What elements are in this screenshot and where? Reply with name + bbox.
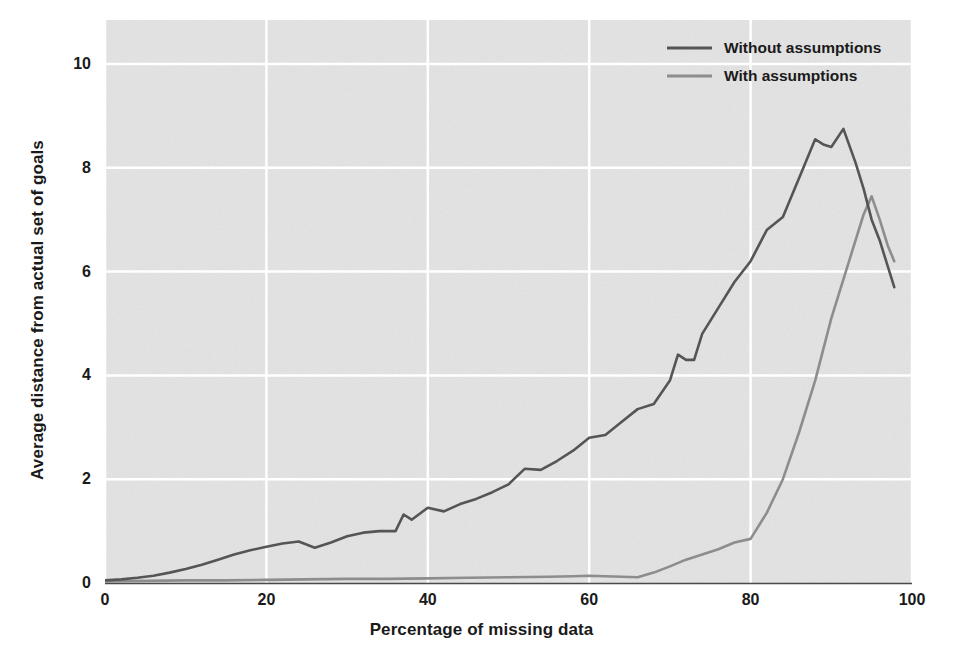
- x-tick-label: 100: [899, 591, 926, 609]
- x-tick-label: 0: [101, 591, 110, 609]
- y-tick-label: 10: [47, 55, 91, 73]
- legend-label-with-assumptions: With assumptions: [724, 67, 857, 84]
- y-tick-label: 0: [47, 574, 91, 592]
- y-axis-title: Average distance from actual set of goal…: [28, 50, 48, 570]
- legend-label-without-assumptions: Without assumptions: [724, 39, 881, 56]
- y-tick-label: 4: [47, 366, 91, 384]
- y-tick-label: 6: [47, 263, 91, 281]
- x-tick-label: 80: [742, 591, 760, 609]
- chart-figure: Without assumptions With assumptions 020…: [0, 0, 963, 659]
- x-tick-label: 20: [257, 591, 275, 609]
- line-chart-plot: Without assumptions With assumptions: [0, 0, 963, 659]
- x-tick-label: 40: [419, 591, 437, 609]
- y-tick-label: 8: [47, 159, 91, 177]
- x-axis-title: Percentage of missing data: [0, 620, 963, 640]
- x-tick-label: 60: [580, 591, 598, 609]
- plot-area-grain: [105, 20, 912, 583]
- y-tick-label: 2: [47, 470, 91, 488]
